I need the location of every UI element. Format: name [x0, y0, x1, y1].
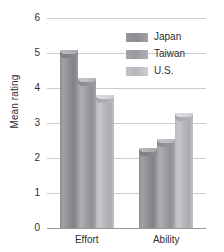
y-axis-tick-label: 3 [14, 118, 40, 128]
bar-body [78, 78, 96, 229]
y-axis-tick-label: 6 [14, 13, 40, 23]
axis-baseline [47, 228, 206, 229]
bar-cap-highlight [175, 113, 193, 117]
x-axis-tick-label: Ability [153, 234, 180, 245]
y-axis-tick-label: 4 [14, 83, 40, 93]
gridline [47, 18, 206, 19]
bar-cap-highlight [78, 78, 96, 82]
legend-item: U.S. [126, 64, 200, 78]
bar [175, 113, 193, 229]
bar-body [60, 50, 78, 229]
legend-label: Taiwan [154, 49, 185, 59]
bar [157, 139, 175, 228]
bar [139, 148, 157, 229]
bar-body [96, 95, 114, 228]
bar-cap-highlight [139, 148, 157, 152]
legend-swatch-icon [126, 67, 148, 76]
bar [96, 95, 114, 228]
y-axis-tick-label: 1 [14, 188, 40, 198]
legend-item: Taiwan [126, 47, 200, 61]
bar-chart: Mean rating 0123456 EffortAbility JapanT… [0, 0, 224, 252]
bar-cap-highlight [96, 95, 114, 99]
bar-body [157, 139, 175, 228]
legend-swatch-icon [126, 33, 148, 42]
y-axis-tick-label: 0 [14, 223, 40, 233]
y-axis-title: Mean rating [9, 46, 20, 158]
y-axis-tick-label: 2 [14, 153, 40, 163]
legend-item: Japan [126, 30, 200, 44]
legend-swatch-icon [126, 50, 148, 59]
x-axis-tick-label: Effort [75, 234, 99, 245]
bar [60, 50, 78, 229]
legend-label: Japan [154, 32, 181, 42]
bar-cap-highlight [60, 50, 78, 54]
bar-body [175, 113, 193, 229]
chart-legend: JapanTaiwanU.S. [126, 30, 200, 81]
y-axis-tick-label: 5 [14, 48, 40, 58]
bar [78, 78, 96, 229]
bar-body [139, 148, 157, 229]
legend-label: U.S. [154, 66, 173, 76]
bar-cap-highlight [157, 139, 175, 143]
